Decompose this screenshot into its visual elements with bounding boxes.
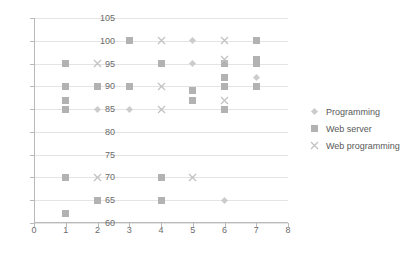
cross-data-point [220, 55, 229, 64]
x-tick-label: 7 [246, 226, 266, 235]
y-tick-label: 65 [89, 196, 115, 205]
x-tick-label: 2 [88, 226, 108, 235]
x-tick-label: 0 [24, 226, 44, 235]
y-tick-label: 85 [89, 105, 115, 114]
y-tick-label: 105 [89, 14, 115, 23]
y-tick-label: 95 [89, 60, 115, 69]
y-tick [30, 132, 34, 133]
legend-label: Programming [326, 107, 380, 117]
y-axis-line [34, 18, 35, 223]
square-data-point [158, 60, 165, 67]
square-data-point [126, 83, 133, 90]
x-tick-label: 3 [119, 226, 139, 235]
scatter-chart: 6065707580859095100105 012345678 Program… [0, 0, 409, 254]
legend-item: Web programming [306, 137, 400, 154]
y-tick [30, 109, 34, 110]
y-tick-label: 75 [89, 151, 115, 160]
square-data-point [126, 37, 133, 44]
square-data-point [221, 83, 228, 90]
gridline-y [35, 132, 288, 133]
square-data-point [189, 87, 196, 94]
y-tick [30, 64, 34, 65]
y-tick [30, 41, 34, 42]
square-data-point [62, 97, 69, 104]
square-data-point [221, 74, 228, 81]
square-data-point [158, 174, 165, 181]
plot-area [34, 18, 288, 223]
x-tick-label: 4 [151, 226, 171, 235]
y-tick [30, 177, 34, 178]
y-tick [30, 200, 34, 201]
y-tick-label: 90 [89, 82, 115, 91]
cross-data-point [220, 36, 229, 45]
cross-marker [306, 141, 322, 150]
diamond-data-point [189, 60, 196, 67]
gridline-y [35, 18, 288, 19]
square-data-point [253, 60, 260, 67]
square-data-point [253, 83, 260, 90]
x-tick-label: 6 [215, 226, 235, 235]
cross-data-point [157, 36, 166, 45]
chart-legend: ProgrammingWeb serverWeb programming [306, 103, 400, 154]
diamond-marker [306, 109, 322, 114]
diamond-data-point [189, 37, 196, 44]
diamond-data-point [221, 197, 228, 204]
y-tick [30, 18, 34, 19]
gridline-y [35, 155, 288, 156]
square-marker [306, 125, 322, 132]
y-tick-label: 70 [89, 173, 115, 182]
y-tick-label: 100 [89, 37, 115, 46]
square-data-point [62, 83, 69, 90]
square-data-point [62, 60, 69, 67]
diamond-data-point [253, 74, 260, 81]
square-data-point [189, 97, 196, 104]
cross-data-point [157, 105, 166, 114]
square-data-point [158, 197, 165, 204]
x-tick-label: 5 [183, 226, 203, 235]
square-data-point [253, 37, 260, 44]
y-tick-label: 80 [89, 128, 115, 137]
cross-data-point [188, 173, 197, 182]
x-tick-label: 1 [56, 226, 76, 235]
legend-label: Web programming [326, 141, 400, 151]
legend-item: Programming [306, 103, 400, 120]
diamond-data-point [126, 106, 133, 113]
square-data-point [62, 174, 69, 181]
square-data-point [221, 106, 228, 113]
square-data-point [62, 106, 69, 113]
square-data-point [62, 210, 69, 217]
y-tick [30, 155, 34, 156]
legend-item: Web server [306, 120, 400, 137]
x-tick-label: 8 [278, 226, 298, 235]
cross-data-point [220, 96, 229, 105]
y-tick [30, 86, 34, 87]
cross-data-point [157, 82, 166, 91]
legend-label: Web server [326, 124, 372, 134]
